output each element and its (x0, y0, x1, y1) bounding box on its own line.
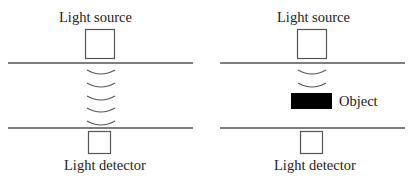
wave-arc-icon (87, 83, 115, 87)
light-detector-label: Light detector (64, 158, 146, 173)
light-detector-box (301, 132, 323, 154)
wave-arc-icon (87, 70, 115, 74)
light-source-label: Light source (277, 10, 350, 25)
panel-without-object (8, 30, 193, 154)
wave-arc-icon (298, 70, 326, 74)
light-detector-label: Light detector (274, 158, 356, 173)
blocking-object (291, 93, 332, 109)
wave-arc-icon (87, 108, 115, 112)
wave-arc-icon (87, 96, 115, 100)
wave-arc-icon (298, 83, 326, 87)
light-source-box (298, 30, 327, 59)
light-waves (87, 70, 115, 125)
wave-arc-icon (87, 121, 115, 125)
light-waves (298, 70, 326, 87)
light-source-box (86, 30, 115, 59)
diagram-canvas (0, 0, 415, 182)
light-detector-box (89, 132, 111, 154)
object-label: Object (339, 94, 378, 109)
panel-with-object (220, 30, 405, 154)
light-source-label: Light source (59, 10, 132, 25)
